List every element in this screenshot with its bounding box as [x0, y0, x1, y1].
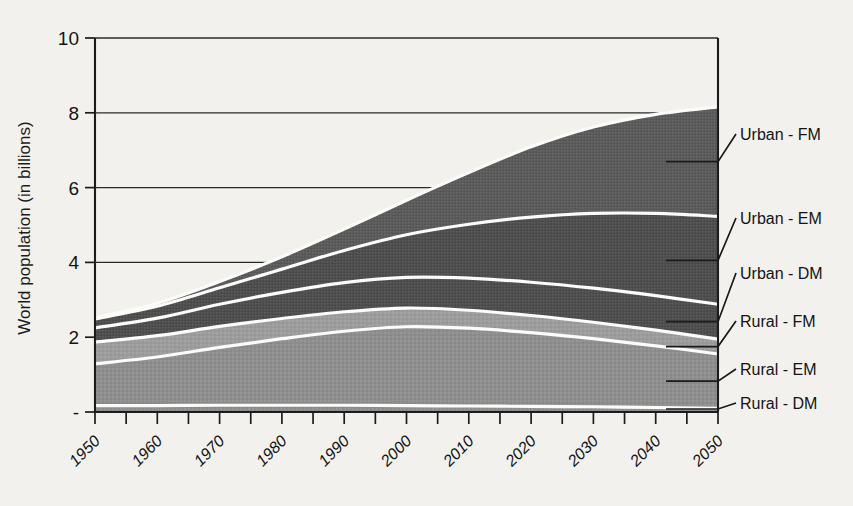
legend-label: Urban - EM: [740, 210, 822, 227]
legend-label: Urban - FM: [740, 126, 821, 143]
y-tick-label: -: [73, 402, 79, 423]
stacked-area-chart: -246810 19501960197019801990200020102020…: [0, 0, 853, 506]
y-tick-label: 4: [68, 252, 79, 273]
y-tick-label: 6: [68, 178, 79, 199]
y-tick-label: 2: [68, 327, 79, 348]
legend-label: Urban - DM: [740, 265, 823, 282]
chart-figure: -246810 19501960197019801990200020102020…: [0, 0, 853, 506]
legend-label: Rural - FM: [740, 313, 816, 330]
legend-label: Rural - EM: [740, 361, 816, 378]
y-tick-label: 10: [58, 28, 79, 49]
y-axis-label: World population (in billions): [15, 121, 34, 334]
legend-label: Rural - DM: [740, 395, 817, 412]
y-tick-label: 8: [68, 103, 79, 124]
